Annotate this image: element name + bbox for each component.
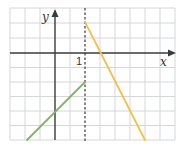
x-axis-label: x (160, 55, 167, 69)
tick-label-one: 1 (76, 55, 82, 67)
function-graph: y x 1 (0, 0, 180, 149)
grid (10, 8, 175, 140)
y-axis-arrow-icon (52, 9, 59, 17)
y-axis-label: y (41, 10, 49, 24)
